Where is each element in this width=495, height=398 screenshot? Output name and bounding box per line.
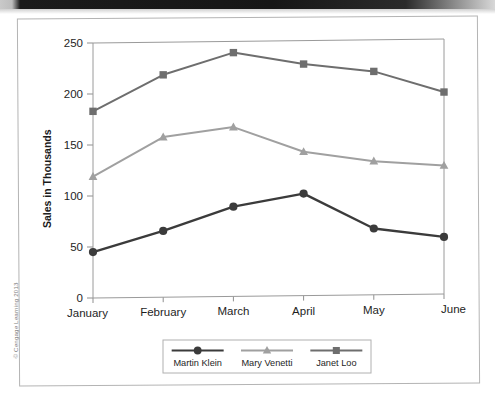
chart-svg: Sales in Thousands 050100150200250Januar…: [0, 0, 495, 398]
data-point-marker: [160, 71, 167, 78]
data-point-marker: [333, 347, 340, 354]
x-tick-label: June: [441, 303, 466, 315]
data-point-marker: [229, 203, 237, 211]
y-tick-label: 200: [64, 88, 83, 100]
legend-item-janet-loo[interactable]: Janet Loo: [310, 347, 362, 368]
legend-label: Janet Loo: [316, 358, 356, 368]
series-janet-loo: [89, 49, 447, 115]
legend-group: Martin KleinMary VenettiJanet Loo: [163, 340, 371, 373]
legend-box: [163, 340, 371, 373]
x-tick-label: May: [363, 304, 385, 316]
data-point-marker: [370, 68, 377, 75]
legend-label: Martin Klein: [173, 358, 222, 368]
y-tick-label: 50: [70, 241, 83, 253]
data-point-marker: [370, 224, 378, 232]
line-chart: Sales in Thousands 050100150200250Januar…: [0, 0, 495, 398]
y-tick-label: 0: [77, 292, 83, 304]
y-tick-label: 250: [64, 37, 83, 49]
y-axis-title: Sales in Thousands: [41, 129, 53, 228]
data-point-marker: [159, 227, 167, 235]
plot-frame-group: [93, 39, 444, 298]
y-tick-label: 150: [64, 139, 83, 151]
data-point-marker: [300, 190, 308, 198]
series-mary-venetti: [89, 123, 449, 180]
axis-ticks-group: 050100150200250JanuaryFebruaryMarchApril…: [64, 37, 466, 319]
y-tick-label: 100: [64, 190, 83, 202]
data-point-marker: [440, 88, 447, 95]
x-tick-label: January: [67, 307, 108, 319]
x-tick-label: February: [140, 306, 186, 318]
legend-item-martin-klein[interactable]: Martin Klein: [172, 347, 224, 368]
data-point-marker: [440, 233, 448, 241]
data-point-marker: [300, 60, 307, 67]
series-martin-klein: [89, 190, 448, 257]
legend-label: Mary Venetti: [241, 358, 292, 368]
data-point-marker: [89, 248, 97, 256]
data-point-marker: [194, 347, 202, 355]
data-point-marker: [89, 108, 96, 115]
x-tick-label: March: [217, 305, 249, 317]
data-point-marker: [230, 49, 237, 56]
x-tick-label: April: [292, 305, 315, 317]
data-point-marker: [229, 123, 238, 131]
series-group: [89, 49, 449, 256]
